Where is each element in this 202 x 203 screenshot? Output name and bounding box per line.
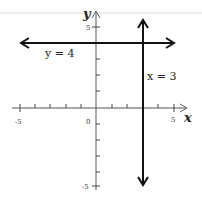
coordinate-plane: y x -5 0 5 5 -5 y = 4 x = 3 (0, 0, 202, 203)
tick-label-x-neg5: -5 (15, 118, 22, 126)
tick-label-x-pos5: 5 (171, 116, 175, 124)
label-y-equals-4: y = 4 (44, 47, 74, 60)
y-axis-label: y (82, 6, 92, 21)
tick-label-y-pos5: 5 (86, 24, 90, 32)
tick-label-y-neg5: -5 (82, 183, 89, 191)
tick-label-origin: 0 (86, 118, 90, 126)
x-axis-label: x (183, 110, 192, 125)
label-x-equals-3: x = 3 (147, 70, 176, 83)
